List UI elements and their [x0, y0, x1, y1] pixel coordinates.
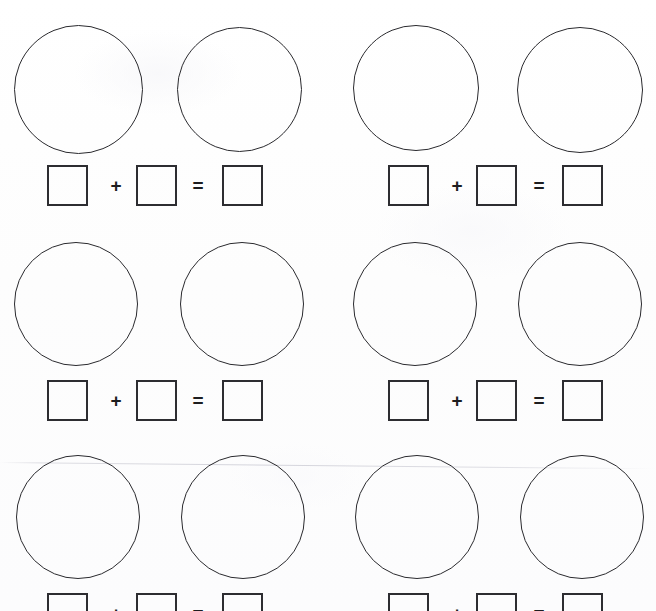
plus-sign-3: + — [106, 391, 126, 410]
addend-2-circle-6-2[interactable] — [520, 455, 644, 579]
answer-box-addend-2-1[interactable] — [136, 165, 177, 206]
answer-box-addend-2-4[interactable] — [476, 380, 517, 421]
addend-1-circle-2-1[interactable] — [353, 25, 479, 151]
answer-box-addend-1-3[interactable] — [47, 380, 88, 421]
addend-2-circle-4-2[interactable] — [518, 242, 642, 366]
answer-box-sum-4[interactable] — [562, 380, 603, 421]
answer-box-sum-5[interactable] — [222, 593, 263, 611]
equals-sign-2: = — [529, 176, 549, 195]
plus-sign-1: + — [106, 176, 126, 195]
addend-1-circle-6-1[interactable] — [355, 455, 479, 579]
plus-sign-2: + — [447, 176, 467, 195]
answer-box-addend-2-5[interactable] — [136, 593, 177, 611]
answer-box-addend-2-6[interactable] — [476, 593, 517, 611]
equals-sign-5: = — [188, 604, 208, 611]
addend-1-circle-3-1[interactable] — [14, 242, 138, 366]
equals-sign-4: = — [529, 391, 549, 410]
answer-box-addend-2-3[interactable] — [136, 380, 177, 421]
equals-sign-3: = — [188, 391, 208, 410]
worksheet-page: +=+=+=+=+=+= — [0, 0, 656, 611]
answer-box-addend-1-1[interactable] — [47, 165, 88, 206]
answer-box-addend-1-6[interactable] — [388, 593, 429, 611]
plus-sign-6: + — [447, 604, 467, 611]
addend-2-circle-5-2[interactable] — [181, 455, 305, 579]
addend-1-circle-5-1[interactable] — [16, 455, 140, 579]
addend-2-circle-1-2[interactable] — [177, 27, 302, 152]
answer-box-addend-1-4[interactable] — [388, 380, 429, 421]
addend-2-circle-2-2[interactable] — [517, 27, 643, 153]
answer-box-sum-3[interactable] — [222, 380, 263, 421]
answer-box-addend-1-5[interactable] — [47, 593, 88, 611]
answer-box-sum-1[interactable] — [222, 165, 263, 206]
answer-box-sum-6[interactable] — [562, 593, 603, 611]
addend-1-circle-1-1[interactable] — [14, 25, 143, 154]
plus-sign-5: + — [106, 604, 126, 611]
answer-box-addend-2-2[interactable] — [476, 165, 517, 206]
answer-box-sum-2[interactable] — [562, 165, 603, 206]
plus-sign-4: + — [447, 391, 467, 410]
addend-1-circle-4-1[interactable] — [353, 242, 477, 366]
equals-sign-6: = — [529, 604, 549, 611]
answer-box-addend-1-2[interactable] — [388, 165, 429, 206]
addend-2-circle-3-2[interactable] — [180, 242, 304, 366]
equals-sign-1: = — [188, 176, 208, 195]
